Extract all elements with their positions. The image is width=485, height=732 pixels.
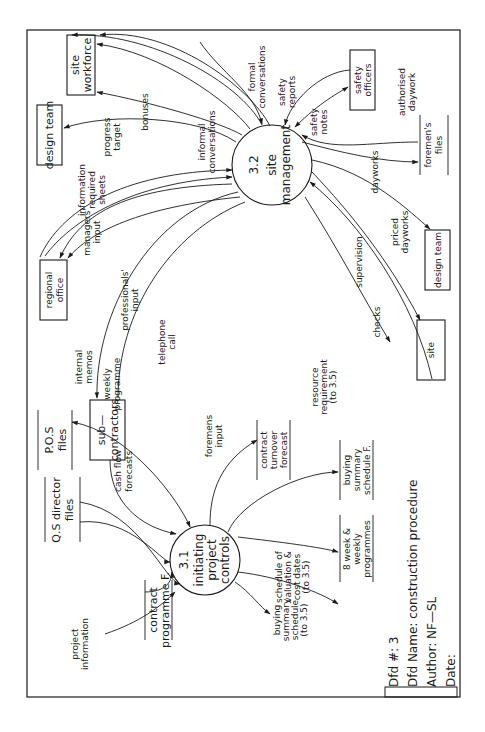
svg-text:professionals': professionals' <box>120 269 130 331</box>
svg-text:site: site <box>426 341 436 358</box>
svg-text:input: input <box>130 288 140 312</box>
svg-text:notes: notes <box>319 109 329 134</box>
svg-text:weekly: weekly <box>352 533 362 565</box>
svg-text:conversations: conversations <box>207 110 217 173</box>
svg-text:foremen's: foremen's <box>423 122 433 167</box>
svg-text:target: target <box>112 123 122 151</box>
svg-text:initiating: initiating <box>192 534 206 587</box>
svg-text:formal: formal <box>247 63 257 92</box>
svg-text:bonuses: bonuses <box>140 93 150 131</box>
svg-text:(to 3.5): (to 3.5) <box>328 370 338 403</box>
diagram-stage: 3.1 initiating project controls 3.2 site… <box>0 0 485 732</box>
svg-text:information: information <box>77 164 87 216</box>
svg-text:contract: contract <box>259 431 269 469</box>
entity-safety-officers[interactable]: safety officers <box>350 50 375 110</box>
entity-site[interactable]: site <box>417 320 445 380</box>
svg-text:required: required <box>87 171 97 209</box>
svg-text:8 week &: 8 week & <box>342 528 352 570</box>
svg-text:call: call <box>167 334 177 349</box>
process-3-2[interactable]: 3.2 site management <box>232 125 312 206</box>
entity-design-team-bottom[interactable]: design team <box>425 230 450 290</box>
svg-text:programme F.: programme F. <box>159 572 172 648</box>
svg-text:input: input <box>92 220 102 244</box>
svg-text:project: project <box>70 628 80 660</box>
svg-text:cash flow: cash flow <box>113 450 123 492</box>
svg-text:files: files <box>63 498 76 521</box>
store-week-programmes[interactable]: 8 week & weekly programmes <box>340 515 373 582</box>
store-buying-summary[interactable]: buying summary schedule F. <box>340 440 373 500</box>
svg-text:regional: regional <box>44 272 54 308</box>
svg-text:files: files <box>56 428 69 451</box>
svg-text:officers: officers <box>363 63 373 96</box>
svg-text:programme: programme <box>112 357 122 410</box>
entity-site-workforce[interactable]: site workforce <box>67 35 95 95</box>
svg-text:controls: controls <box>218 536 232 584</box>
svg-text:reports: reports <box>287 76 297 108</box>
svg-text:conversations: conversations <box>257 45 267 108</box>
meta-side-box <box>385 687 457 697</box>
svg-text:safety: safety <box>277 77 287 105</box>
process-3-2-number: 3.2 <box>247 155 261 174</box>
process-3-1-number: 3.1 <box>177 550 191 569</box>
store-foremens-files[interactable]: foremen's files <box>420 115 448 175</box>
svg-text:weekly: weekly <box>102 368 112 400</box>
svg-text:management: management <box>279 125 293 206</box>
svg-text:dayworks: dayworks <box>370 150 380 193</box>
svg-text:informal: informal <box>197 123 207 160</box>
svg-text:buying: buying <box>342 455 352 486</box>
svg-text:forecast: forecast <box>279 431 289 468</box>
dfd-number: Dfd #: 3 <box>387 637 401 687</box>
svg-text:internal: internal <box>74 350 84 385</box>
svg-text:safety: safety <box>353 65 363 93</box>
svg-text:dayworks: dayworks <box>400 210 410 253</box>
svg-text:(to 3.5): (to 3.5) <box>301 560 311 593</box>
svg-text:P.O.S: P.O.S <box>43 426 56 453</box>
data-flow-diagram: 3.1 initiating project controls 3.2 site… <box>0 0 485 732</box>
dfd-date: Date: <box>444 654 458 687</box>
svg-text:information: information <box>80 618 90 670</box>
svg-text:daywork: daywork <box>407 72 417 111</box>
svg-text:input: input <box>214 424 224 448</box>
svg-text:site: site <box>265 154 279 176</box>
svg-text:workforce: workforce <box>81 38 94 93</box>
svg-text:(to 3.5): (to 3.5) <box>299 603 309 636</box>
svg-text:authorised: authorised <box>397 68 407 116</box>
svg-text:supervision: supervision <box>354 236 364 288</box>
dfd-author: Author: NF—SL <box>425 596 439 687</box>
svg-text:Q.S director: Q.S director <box>50 477 63 543</box>
dfd-meta-block: Dfd #: 3 Dfd Name: construction procedur… <box>385 480 458 697</box>
svg-text:design team: design team <box>433 232 443 288</box>
entity-design-team-top[interactable]: design team <box>37 101 62 170</box>
store-pos-files[interactable]: P.O.S files <box>38 410 72 470</box>
svg-text:progress: progress <box>102 117 112 156</box>
svg-text:turnover: turnover <box>269 430 279 469</box>
svg-text:project: project <box>205 539 219 581</box>
svg-text:programmes: programmes <box>362 520 372 578</box>
svg-text:office: office <box>55 277 65 302</box>
process-3-1[interactable]: 3.1 initiating project controls <box>170 525 240 595</box>
svg-text:checks: checks <box>372 306 382 337</box>
entity-regional-office[interactable]: regional office <box>40 260 67 320</box>
svg-text:foremens: foremens <box>204 414 214 457</box>
store-contract-turnover[interactable]: contract turnover forecast <box>257 420 290 480</box>
svg-text:forecasts: forecasts <box>124 451 134 492</box>
svg-text:safety: safety <box>309 107 319 135</box>
svg-text:telephone: telephone <box>157 319 167 365</box>
svg-text:summary: summary <box>352 448 362 491</box>
svg-text:priced: priced <box>390 218 400 246</box>
svg-text:files: files <box>434 135 444 154</box>
svg-text:design team: design team <box>43 101 56 170</box>
svg-text:schedule F.: schedule F. <box>362 445 372 495</box>
svg-text:sheets: sheets <box>97 175 107 205</box>
dfd-name: Dfd Name: construction procedure <box>406 480 420 687</box>
svg-text:memos: memos <box>84 350 94 384</box>
